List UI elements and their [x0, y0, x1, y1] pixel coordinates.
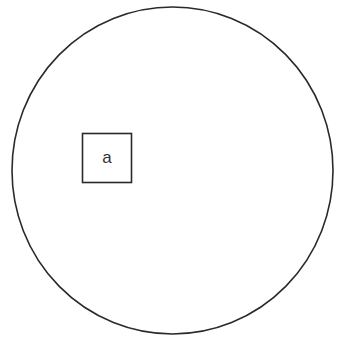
- diagram-canvas: a: [0, 0, 339, 362]
- outer-circle: [12, 7, 333, 334]
- element-label: a: [102, 148, 112, 167]
